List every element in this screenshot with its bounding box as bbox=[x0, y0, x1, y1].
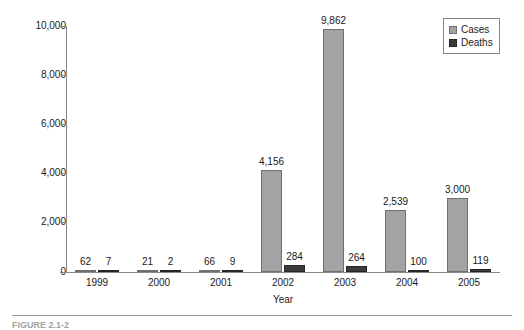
x-tick-label-2002: 2002 bbox=[252, 277, 314, 288]
bar-deaths-2005 bbox=[470, 269, 491, 272]
value-label-deaths-2001: 9 bbox=[213, 257, 253, 267]
bar-cases-2003 bbox=[323, 29, 344, 272]
bar-chart: 10,000 8,000 6,000 4,000 2,000 0 6272126… bbox=[0, 0, 524, 330]
x-axis-title: Year bbox=[66, 294, 500, 305]
x-tick-label-2004: 2004 bbox=[376, 277, 438, 288]
value-label-cases-2003: 9,862 bbox=[314, 16, 354, 26]
bar-deaths-2004 bbox=[408, 270, 429, 272]
value-label-deaths-2003: 264 bbox=[337, 253, 377, 263]
bar-cases-1999 bbox=[75, 270, 96, 272]
value-label-cases-2004: 2,539 bbox=[376, 197, 416, 207]
legend-item-deaths: Deaths bbox=[449, 36, 493, 49]
value-label-deaths-2005: 119 bbox=[461, 256, 501, 266]
x-tick-label-2000: 2000 bbox=[128, 277, 190, 288]
bar-deaths-1999 bbox=[98, 270, 119, 272]
value-label-deaths-2004: 100 bbox=[399, 257, 439, 267]
legend-swatch-deaths-icon bbox=[449, 39, 457, 47]
legend-label-cases: Cases bbox=[461, 24, 489, 35]
legend-swatch-cases-icon bbox=[449, 26, 457, 34]
value-label-cases-2002: 4,156 bbox=[252, 157, 292, 167]
bar-deaths-2001 bbox=[222, 270, 243, 272]
figure-caption: FIGURE 2.1-2 bbox=[12, 320, 69, 328]
value-label-deaths-1999: 7 bbox=[89, 257, 129, 267]
bar-deaths-2000 bbox=[160, 270, 181, 272]
footer-divider bbox=[12, 315, 512, 316]
bar-deaths-2003 bbox=[346, 266, 367, 272]
legend-label-deaths: Deaths bbox=[461, 37, 493, 48]
value-label-deaths-2002: 284 bbox=[275, 252, 315, 262]
value-label-deaths-2000: 2 bbox=[151, 257, 191, 267]
x-tick-label-2001: 2001 bbox=[190, 277, 252, 288]
bar-cases-2001 bbox=[199, 270, 220, 272]
bar-deaths-2002 bbox=[284, 265, 305, 272]
x-axis-line bbox=[66, 272, 500, 273]
legend-item-cases: Cases bbox=[449, 23, 493, 36]
bar-cases-2000 bbox=[137, 270, 158, 272]
x-tick-label-2003: 2003 bbox=[314, 277, 376, 288]
x-tick-label-1999: 1999 bbox=[66, 277, 128, 288]
y-axis-line bbox=[66, 26, 67, 272]
chart-legend: Cases Deaths bbox=[443, 18, 500, 54]
x-tick-label-2005: 2005 bbox=[438, 277, 500, 288]
value-label-cases-2005: 3,000 bbox=[438, 185, 478, 195]
